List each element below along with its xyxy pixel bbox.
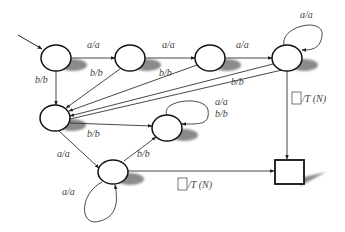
state-s2	[195, 45, 225, 71]
state-diagram: a/a a/a a/a a/a b/b b/b b/b b/b b/b a/a …	[0, 0, 345, 232]
state-s6	[98, 160, 128, 184]
label-s5-loop-b: b/b	[215, 108, 228, 119]
blank-symbol-icon	[178, 178, 187, 190]
label-s3-loop: a/a	[300, 9, 313, 20]
label-s2-s3: a/a	[236, 39, 249, 50]
state-s5	[152, 115, 182, 141]
label-s3-final: /T (N)	[301, 93, 327, 105]
label-s4-s6: a/a	[57, 148, 70, 159]
initial-arrow	[18, 35, 42, 49]
label-s6-final: /T (N)	[187, 179, 213, 191]
state-s1	[115, 45, 145, 71]
final-state-box	[275, 160, 304, 184]
label-s0-s4: b/b	[35, 74, 48, 85]
label-s6-loop: a/a	[62, 186, 75, 197]
state-s3	[272, 45, 302, 71]
label-s5-loop-a: a/a	[215, 96, 228, 107]
label-s0-s1: a/a	[87, 39, 100, 50]
loop-s6	[85, 182, 117, 222]
label-s2-s4: b/b	[159, 67, 172, 78]
label-s1-s2: a/a	[162, 39, 175, 50]
label-s3-s4: b/b	[231, 76, 244, 87]
label-s1-s4: b/b	[90, 67, 103, 78]
label-s6-s5: b/b	[137, 148, 150, 159]
blank-symbol-icon	[292, 92, 301, 104]
state-s4	[40, 105, 70, 131]
state-s0	[41, 45, 71, 71]
label-s4-s5: b/b	[87, 128, 100, 139]
